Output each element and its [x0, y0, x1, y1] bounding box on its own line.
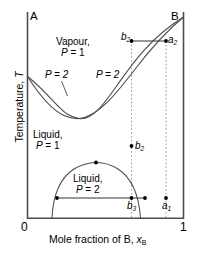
x-axis-title-subscript: B: [142, 239, 147, 246]
liquid-region-line1: Liquid,: [33, 129, 62, 140]
b2-upper-sub: 2: [127, 36, 131, 43]
x-tick-label-left: 0: [21, 221, 28, 234]
y-axis-title-prefix: Temperature,: [13, 78, 25, 143]
b2-upper-letter: b: [121, 31, 127, 42]
p2-left-text: = 2: [51, 69, 68, 80]
b2-middle-sub: 2: [141, 145, 145, 152]
liquid-two-phase-region-label: Liquid, P = 2: [73, 173, 102, 195]
corner-label-a: A: [30, 10, 38, 23]
phase-diagram-figure: A B Vapour, P = 1 Liquid, P = 1 Liquid, …: [0, 0, 200, 253]
liquid-two-phase-line2: = 2: [83, 184, 100, 195]
x-axis-title: Mole fraction of B, xB: [49, 234, 146, 246]
liquid-region-symbol: P: [36, 140, 43, 151]
liquid-two-phase-line1: Liquid,: [73, 173, 102, 184]
vapour-region-line2: = 1: [68, 47, 85, 58]
vapour-region-label: Vapour, P = 1: [56, 36, 90, 58]
point-marker-b2-middle: [130, 144, 134, 148]
b3-sub: 3: [133, 205, 137, 212]
b3-letter: b: [127, 200, 133, 211]
point-label-b2-middle: b2: [135, 140, 144, 151]
point-marker-dome-apex: [94, 161, 98, 165]
point-marker-tie-right: [143, 196, 147, 200]
x-axis-title-prefix: Mole fraction of B,: [49, 233, 137, 245]
liquid-two-phase-symbol: P: [76, 184, 83, 195]
y-axis-title-wrapper: Temperature, T: [9, 42, 27, 172]
y-axis-title: Temperature, T: [13, 71, 25, 142]
y-axis-title-symbol: T: [13, 71, 25, 77]
p2-right-label: P = 2: [96, 69, 119, 80]
point-label-b3: b3: [127, 200, 136, 211]
p2-left-label: P = 2: [45, 69, 68, 80]
a1-sub: 1: [168, 205, 172, 212]
liquid-region-line2: = 1: [43, 140, 60, 151]
a2-sub: 2: [174, 39, 178, 46]
a1-letter: a: [162, 200, 168, 211]
vapour-region-line1: Vapour,: [56, 36, 90, 47]
liquid-region-label: Liquid, P = 1: [33, 129, 62, 151]
point-marker-tie-left: [55, 196, 59, 200]
p2-left-leader-line: [62, 81, 68, 96]
p2-right-text: = 2: [102, 69, 119, 80]
b2-middle-letter: b: [135, 140, 141, 151]
point-label-b2-upper: b2: [121, 31, 130, 42]
vapour-region-symbol: P: [61, 47, 68, 58]
point-label-a1: a1: [162, 200, 171, 211]
x-axis-title-symbol: x: [137, 233, 142, 245]
point-label-a2: a2: [168, 34, 177, 45]
x-tick-label-right: 1: [180, 221, 187, 234]
liquid-boundary-curve: [28, 17, 184, 119]
a2-letter: a: [168, 34, 174, 45]
corner-label-b: B: [171, 10, 179, 23]
